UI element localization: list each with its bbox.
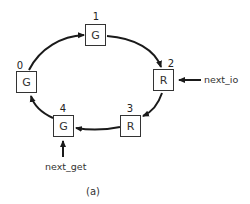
next-get-label: next_get xyxy=(45,162,86,172)
node-2-index: 2 xyxy=(165,59,177,69)
node-4-box: G xyxy=(53,115,74,137)
node-0-index: 0 xyxy=(14,61,26,71)
next-io-label: next_io xyxy=(204,75,238,85)
edge-4-to-0 xyxy=(31,96,53,118)
diagram-edges xyxy=(0,0,250,204)
node-3-box: R xyxy=(120,115,141,137)
node-1-box: G xyxy=(85,24,106,46)
node-2-box: R xyxy=(153,69,174,91)
edge-2-to-3 xyxy=(143,93,162,116)
circular-buffer-diagram: 0 G 1 G 2 R 3 R 4 G next_io next_get (a) xyxy=(0,0,250,204)
node-1-index: 1 xyxy=(90,12,102,22)
node-3-index: 3 xyxy=(124,104,136,114)
node-4-index: 4 xyxy=(57,104,69,114)
figure-caption: (a) xyxy=(86,187,100,197)
edge-0-to-1 xyxy=(29,35,84,70)
node-0-box: G xyxy=(16,71,37,93)
edge-3-to-4 xyxy=(76,127,120,129)
edge-1-to-2 xyxy=(107,36,161,67)
